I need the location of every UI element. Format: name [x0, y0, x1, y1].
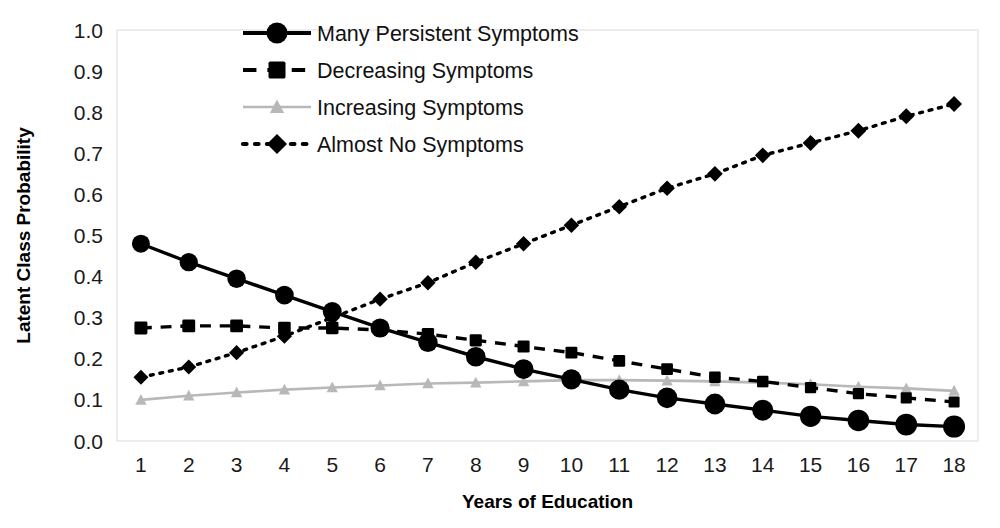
data-point-marker	[705, 394, 726, 415]
y-axis-tick-label: 0.2	[74, 347, 103, 370]
data-point-marker	[805, 382, 816, 393]
x-axis-tick-label: 14	[751, 453, 775, 476]
legend-marker-icon	[267, 23, 288, 44]
x-axis-tick-label: 18	[942, 453, 965, 476]
x-axis-tick-label: 7	[422, 453, 434, 476]
data-point-marker	[901, 392, 912, 403]
data-point-marker	[466, 347, 486, 367]
data-point-marker	[661, 363, 673, 375]
chart-figure: 0.00.10.20.30.40.50.60.70.80.91.0Latent …	[0, 0, 1000, 528]
chart-canvas: 0.00.10.20.30.40.50.60.70.80.91.0Latent …	[0, 0, 1000, 528]
data-point-marker	[227, 269, 245, 287]
legend-item-label: Decreasing Symptoms	[317, 59, 533, 83]
x-axis-tick-label: 9	[518, 453, 530, 476]
x-axis-tick-label: 12	[655, 453, 678, 476]
data-point-marker	[278, 322, 291, 335]
data-point-marker	[848, 410, 870, 432]
data-point-marker	[180, 253, 198, 271]
data-point-marker	[514, 359, 534, 379]
x-axis-tick-label: 4	[279, 453, 291, 476]
y-axis-tick-label: 1.0	[74, 19, 103, 42]
data-point-marker	[561, 369, 581, 389]
y-axis-tick-label: 0.9	[74, 60, 103, 83]
legend-item-label: Almost No Symptoms	[317, 133, 524, 157]
data-point-marker	[800, 406, 821, 427]
data-point-marker	[853, 388, 864, 399]
data-point-marker	[943, 416, 965, 438]
data-point-marker	[230, 320, 243, 333]
legend-item-label: Increasing Symptoms	[317, 96, 524, 120]
data-point-marker	[275, 286, 294, 305]
x-axis-tick-label: 15	[799, 453, 822, 476]
x-axis-tick-label: 8	[470, 453, 482, 476]
y-axis-tick-label: 0.0	[74, 430, 103, 453]
data-point-marker	[609, 379, 629, 399]
y-axis-tick-label: 0.5	[74, 224, 103, 247]
data-point-marker	[752, 400, 773, 421]
data-point-marker	[565, 347, 577, 359]
x-axis-tick-label: 17	[895, 453, 918, 476]
x-axis-tick-labels: 123456789101112131415161718	[135, 453, 966, 476]
x-axis-tick-label: 3	[231, 453, 243, 476]
data-point-marker	[323, 302, 342, 321]
data-point-marker	[757, 376, 768, 387]
data-point-marker	[370, 318, 389, 337]
x-axis-tick-label: 13	[703, 453, 726, 476]
data-point-marker	[518, 340, 530, 352]
legend-item-label: Many Persistent Symptoms	[317, 22, 579, 46]
data-point-marker	[709, 372, 721, 384]
x-axis-tick-label: 16	[847, 453, 870, 476]
x-axis-tick-label: 5	[326, 453, 338, 476]
y-axis-tick-label: 0.8	[74, 101, 103, 124]
x-axis-title: Years of Education	[462, 491, 633, 512]
data-point-marker	[949, 396, 960, 407]
data-point-marker	[134, 321, 147, 334]
data-point-marker	[613, 355, 625, 367]
data-point-marker	[132, 235, 150, 253]
data-point-marker	[326, 322, 339, 335]
data-point-marker	[657, 388, 678, 409]
y-axis-tick-label: 0.4	[74, 265, 104, 288]
x-axis-tick-label: 11	[608, 453, 630, 476]
data-point-marker	[418, 333, 437, 352]
y-axis-tick-label: 0.1	[74, 388, 103, 411]
y-axis-tick-label: 0.3	[74, 306, 103, 329]
plot-area-border	[117, 30, 978, 441]
legend-marker-icon	[269, 62, 286, 79]
y-axis-title: Latent Class Probability	[13, 127, 34, 344]
y-axis-tick-label: 0.6	[74, 183, 103, 206]
data-point-marker	[895, 414, 917, 436]
y-axis-tick-label: 0.7	[74, 142, 103, 165]
y-axis-tick-labels: 0.00.10.20.30.40.50.60.70.80.91.0	[74, 19, 104, 453]
x-axis-tick-label: 6	[374, 453, 386, 476]
x-axis-tick-label: 1	[135, 453, 147, 476]
x-axis-tick-label: 10	[560, 453, 583, 476]
data-point-marker	[182, 319, 195, 332]
x-axis-tick-label: 2	[183, 453, 195, 476]
data-point-marker	[470, 334, 482, 346]
